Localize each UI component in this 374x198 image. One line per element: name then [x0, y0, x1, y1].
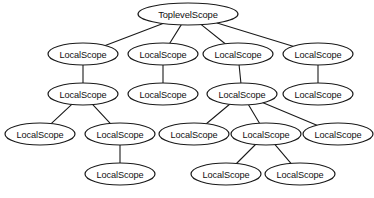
tree-edge: [275, 145, 291, 164]
tree-edge: [51, 104, 72, 123]
local-scope-node[interactable]: LocalScope: [5, 123, 75, 145]
node-label: LocalScope: [214, 50, 261, 60]
node-label: LocalScope: [16, 130, 63, 140]
node-label: LocalScope: [294, 50, 341, 60]
tree-edge: [93, 105, 110, 124]
node-label: LocalScope: [218, 90, 265, 100]
tree-edge: [263, 103, 317, 125]
node-label: LocalScope: [139, 90, 186, 100]
node-label: LocalScope: [59, 90, 106, 100]
node-layer: ToplevelScopeLocalScopeLocalScopeLocalSc…: [5, 3, 373, 185]
node-label: LocalScope: [139, 50, 186, 60]
local-scope-node[interactable]: LocalScope: [207, 83, 277, 105]
local-scope-node[interactable]: LocalScope: [231, 123, 301, 145]
local-scope-node[interactable]: LocalScope: [48, 43, 118, 65]
local-scope-node[interactable]: LocalScope: [283, 43, 353, 65]
node-label: LocalScope: [170, 130, 217, 140]
local-scope-node[interactable]: LocalScope: [303, 123, 373, 145]
local-scope-node[interactable]: LocalScope: [191, 163, 261, 185]
node-label: LocalScope: [202, 170, 249, 180]
scope-tree-diagram: ToplevelScopeLocalScopeLocalScopeLocalSc…: [0, 0, 374, 198]
tree-edge: [206, 104, 229, 123]
local-scope-node[interactable]: LocalScope: [48, 83, 118, 105]
local-scope-node[interactable]: LocalScope: [203, 43, 273, 65]
tree-edge: [236, 144, 255, 163]
toplevel-scope-node[interactable]: ToplevelScope: [138, 3, 238, 25]
local-scope-node[interactable]: LocalScope: [159, 123, 229, 145]
local-scope-node[interactable]: LocalScope: [128, 83, 198, 105]
local-scope-node[interactable]: LocalScope: [128, 43, 198, 65]
node-label: LocalScope: [96, 130, 143, 140]
tree-edge: [170, 25, 181, 43]
node-label: LocalScope: [314, 130, 361, 140]
local-scope-node[interactable]: LocalScope: [85, 123, 155, 145]
tree-edge: [248, 105, 259, 123]
tree-edge: [201, 25, 225, 44]
node-label: LocalScope: [294, 90, 341, 100]
tree-edge: [239, 65, 241, 83]
node-label: LocalScope: [276, 170, 323, 180]
node-label: LocalScope: [96, 170, 143, 180]
node-label: LocalScope: [59, 50, 106, 60]
tree-edge: [105, 24, 163, 46]
local-scope-node[interactable]: LocalScope: [85, 163, 155, 185]
node-label: LocalScope: [242, 130, 289, 140]
scope-tree-canvas: ToplevelScopeLocalScopeLocalScopeLocalSc…: [0, 0, 374, 198]
node-label: ToplevelScope: [158, 9, 218, 20]
local-scope-node[interactable]: LocalScope: [265, 163, 335, 185]
local-scope-node[interactable]: LocalScope: [283, 83, 353, 105]
